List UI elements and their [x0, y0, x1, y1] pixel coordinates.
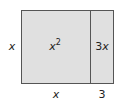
square-area-base: x [49, 40, 56, 53]
bottom-left-label: x [53, 89, 60, 100]
left-side-label: x [9, 41, 16, 52]
square-area-label: x2 [49, 40, 61, 53]
strip-area-var: x [102, 40, 109, 53]
strip-area-coef: 3 [95, 40, 102, 53]
strip-area-label: 3x [95, 41, 109, 52]
bottom-right-label: 3 [99, 89, 106, 100]
square-area-exponent: 2 [56, 38, 61, 47]
